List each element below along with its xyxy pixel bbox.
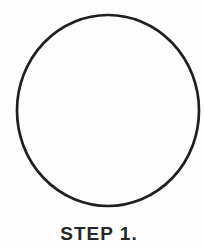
step-figure <box>0 0 204 222</box>
step-caption: STEP 1. <box>0 224 198 243</box>
drawing-lesson-page: STEP 1. <box>0 0 204 247</box>
circle-outline <box>17 15 199 206</box>
